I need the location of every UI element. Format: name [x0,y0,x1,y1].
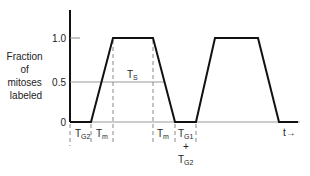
tm-label-2: Tm [157,128,169,140]
tg2-label-2: TG2 [178,154,194,166]
plus-sign: + [183,141,189,152]
time-axis-label: t→ [283,127,296,138]
tick-label-0.5: 0.5 [52,77,66,88]
tg2-label: TG2 [75,128,91,140]
labeled-mitoses-diagram: Fraction of mitoses labeled 1.0 0.5 0 TS… [0,0,310,176]
tick-label-1: 1.0 [52,33,66,44]
tm-label-1: Tm [96,128,108,140]
ts-label: TS [127,69,138,81]
y-axis-label: Fraction of mitoses labeled [7,51,46,101]
tg1-label: TG1 [178,128,194,140]
tick-label-0: 0 [60,117,66,128]
labeled-fraction-curve [70,38,298,122]
